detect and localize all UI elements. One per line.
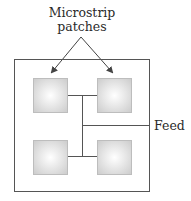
arrow-to-top-right-patch — [81, 37, 112, 72]
arrow-to-top-left-patch — [52, 37, 81, 72]
title-line-2: patches — [57, 19, 106, 34]
patch-top-right — [98, 79, 132, 113]
patch-top-left — [34, 79, 68, 113]
feed-label: Feed — [154, 118, 185, 133]
patch-bottom-left — [34, 141, 68, 175]
microstrip-array-diagram: Microstrip patches Feed — [0, 0, 191, 201]
patch-bottom-right — [98, 141, 132, 175]
title-line-1: Microstrip — [49, 5, 116, 20]
